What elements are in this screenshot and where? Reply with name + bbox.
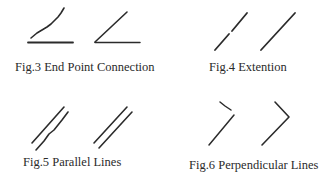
fig3-sketch-slanted-stroke [31, 8, 64, 38]
diagram-canvas [0, 0, 332, 175]
fig3-corrected-slanted-line [95, 12, 127, 42]
fig4-caption: Fig.4 Extention [209, 61, 287, 74]
fig6-sketch-before [209, 102, 234, 145]
fig3-sketch-before [28, 8, 73, 43]
fig6-caption: Fig.6 Perpendicular Lines [189, 159, 319, 172]
fig4-corrected-after [261, 13, 295, 50]
fig6-sketch-short-stroke [220, 102, 231, 110]
fig5-sketch-line-upper [32, 107, 64, 143]
fig4-sketch-upper-segment [232, 13, 247, 31]
fig5-caption: Fig.5 Parallel Lines [23, 156, 121, 169]
fig4-sketch-before [215, 13, 247, 50]
fig4-sketch-lower-segment [215, 34, 229, 50]
fig5-corrected-after [94, 107, 132, 148]
fig5-sketch-line-lower [36, 112, 68, 150]
fig3-caption: Fig.3 End Point Connection [15, 61, 155, 74]
fig5-corrected-line-lower [99, 112, 132, 148]
fig5-corrected-line-upper [94, 107, 127, 143]
fig6-sketch-long-stroke [209, 115, 234, 145]
fig6-corrected-corner [262, 102, 289, 145]
fig3-corrected-after [95, 12, 140, 43]
fig5-sketch-before [32, 107, 68, 150]
fig6-corrected-after [262, 102, 289, 145]
fig4-corrected-line [261, 13, 295, 50]
